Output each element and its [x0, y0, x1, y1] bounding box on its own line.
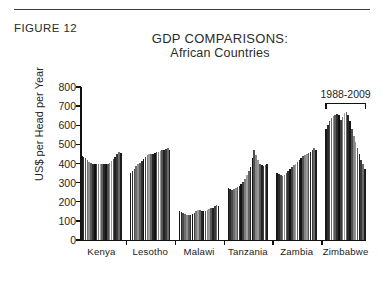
x-tick-mark	[272, 240, 273, 245]
year-range-annotation-label: 1988-2009	[320, 88, 370, 100]
bar	[169, 150, 171, 240]
y-axis-tick-labels: 0100200300400500600700800	[46, 0, 76, 285]
y-tick-label: 800	[58, 81, 76, 93]
bracket-left-tip	[325, 103, 326, 109]
bracket-top-bar	[325, 103, 366, 104]
y-tick-label: 300	[58, 177, 76, 189]
x-category-label: Zambia	[280, 246, 313, 257]
bar	[218, 206, 220, 240]
bar	[120, 153, 122, 240]
bar	[315, 150, 317, 240]
y-tick-mark	[76, 163, 81, 164]
x-tick-mark	[321, 240, 322, 245]
y-tick-mark	[76, 86, 81, 87]
x-category-label: Zimbabwe	[323, 246, 369, 257]
x-category-label: Tanzania	[228, 246, 268, 257]
x-tick-mark	[224, 240, 225, 245]
x-tick-mark	[175, 240, 176, 245]
y-tick-label: 600	[58, 119, 76, 131]
bars-layer	[81, 87, 366, 240]
y-tick-mark	[76, 239, 81, 240]
bar	[266, 164, 268, 241]
y-tick-mark	[76, 201, 81, 202]
y-tick-label: 400	[58, 158, 76, 170]
plot-area: US$ per Head per Year 010020030040050060…	[0, 0, 382, 285]
x-category-label: Lesotho	[132, 246, 168, 257]
y-tick-label: 100	[58, 215, 76, 227]
x-tick-mark	[126, 240, 127, 245]
bracket-right-tip	[365, 103, 366, 109]
y-tick-label: 500	[58, 138, 76, 150]
y-tick-mark	[76, 220, 81, 221]
x-category-label: Kenya	[87, 246, 115, 257]
bar	[364, 169, 366, 240]
y-tick-label: 200	[58, 196, 76, 208]
x-category-label: Malawi	[184, 246, 215, 257]
y-tick-mark	[76, 105, 81, 106]
y-axis-label: US$ per Head per Year	[33, 49, 45, 199]
y-tick-mark	[76, 144, 81, 145]
figure-root: FIGURE 12 GDP COMPARISONS: African Count…	[0, 0, 382, 285]
y-tick-mark	[76, 182, 81, 183]
y-tick-label: 700	[58, 100, 76, 112]
y-tick-mark	[76, 125, 81, 126]
